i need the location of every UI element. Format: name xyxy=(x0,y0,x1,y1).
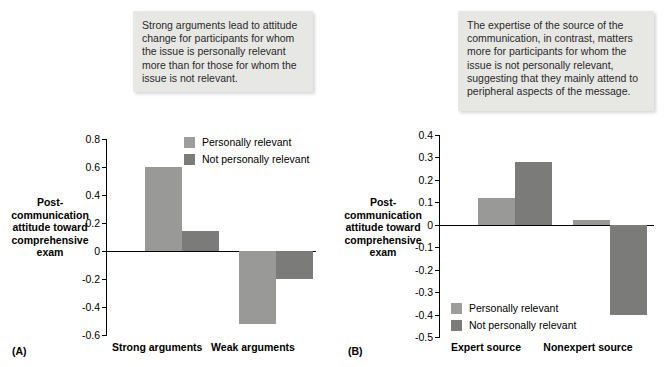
y-tick-b-9 xyxy=(435,337,440,338)
panel-label-a: (A) xyxy=(12,345,27,357)
y-tick-a-7 xyxy=(102,335,107,336)
y-tick-a-6 xyxy=(102,307,107,308)
bar-strong-personally-relevant xyxy=(145,167,182,251)
bar-nonexpert-not-personally-relevant xyxy=(610,225,647,315)
figure-root: Strong arguments lead to attitude change… xyxy=(0,0,666,367)
y-tick-b-8 xyxy=(435,315,440,316)
bar-weak-not-personally-relevant xyxy=(276,251,313,279)
y-tick-b-3 xyxy=(435,202,440,203)
y-ticklabel-b-6: -0.2 xyxy=(415,264,433,276)
y-ticklabel-b-0: 0.4 xyxy=(418,129,433,141)
bar-strong-not-personally-relevant xyxy=(182,231,219,251)
y-ticklabel-a-6: -0.4 xyxy=(82,301,100,313)
y-tick-b-2 xyxy=(435,180,440,181)
bar-expert-not-personally-relevant xyxy=(515,162,552,225)
y-ticklabel-b-4: 0 xyxy=(427,219,433,231)
y-ticklabel-b-2: 0.2 xyxy=(418,174,433,186)
annotation-note-a: Strong arguments lead to attitude change… xyxy=(133,11,313,92)
y-axis-title-a: Post-communication attitude toward compr… xyxy=(8,196,92,259)
legend-label-not-personally-relevant: Not personally relevant xyxy=(202,153,309,165)
annotation-note-b: The expertise of the source of the commu… xyxy=(458,11,654,111)
panel-a: Strong arguments lead to attitude change… xyxy=(0,0,333,367)
y-ticklabel-a-7: -0.6 xyxy=(82,329,100,341)
legend-swatch-icon-not-personally-relevant xyxy=(184,154,195,165)
legend-swatch-icon-not-personally-relevant xyxy=(451,320,462,331)
y-tick-b-7 xyxy=(435,292,440,293)
legend-b: Personally relevant Not personally relev… xyxy=(451,301,576,335)
x-label-b-1: Nonexpert source xyxy=(533,341,643,353)
y-tick-a-3 xyxy=(102,223,107,224)
y-ticklabel-a-1: 0.6 xyxy=(85,161,100,173)
panel-b: The expertise of the source of the commu… xyxy=(333,0,666,367)
y-ticklabel-a-3: 0.2 xyxy=(85,217,100,229)
legend-swatch-icon-personally-relevant xyxy=(451,303,462,314)
y-tick-a-2 xyxy=(102,195,107,196)
y-ticklabel-a-5: -0.2 xyxy=(82,273,100,285)
bar-nonexpert-personally-relevant xyxy=(573,220,610,225)
legend-label-personally-relevant: Personally relevant xyxy=(202,136,291,148)
legend-swatch-icon-personally-relevant xyxy=(184,137,195,148)
y-tick-a-0 xyxy=(102,139,107,140)
legend-label-personally-relevant: Personally relevant xyxy=(469,302,558,314)
legend-item-personally-relevant: Personally relevant xyxy=(184,135,309,149)
y-tick-b-6 xyxy=(435,270,440,271)
x-label-a-0: Strong arguments xyxy=(112,341,202,353)
y-tick-b-1 xyxy=(435,157,440,158)
panel-label-b: (B) xyxy=(348,345,363,357)
legend-label-not-personally-relevant: Not personally relevant xyxy=(469,319,576,331)
y-tick-a-1 xyxy=(102,167,107,168)
y-ticklabel-b-1: 0.3 xyxy=(418,151,433,163)
y-ticklabel-a-2: 0.4 xyxy=(85,189,100,201)
legend-item-not-personally-relevant: Not personally relevant xyxy=(451,318,576,332)
legend-a: Personally relevant Not personally relev… xyxy=(184,135,309,169)
y-axis-title-b: Post-communication attitude toward compr… xyxy=(341,196,425,259)
y-ticklabel-b-8: -0.4 xyxy=(415,309,433,321)
x-label-b-0: Expert source xyxy=(441,341,531,353)
y-ticklabel-a-0: 0.8 xyxy=(85,133,100,145)
y-ticklabel-b-9: -0.5 xyxy=(415,331,433,343)
y-tick-b-5 xyxy=(435,247,440,248)
legend-item-personally-relevant: Personally relevant xyxy=(451,301,576,315)
y-tick-b-0 xyxy=(435,135,440,136)
y-tick-a-5 xyxy=(102,279,107,280)
y-ticklabel-b-3: 0.1 xyxy=(418,196,433,208)
legend-item-not-personally-relevant: Not personally relevant xyxy=(184,152,309,166)
y-ticklabel-a-4: 0 xyxy=(94,245,100,257)
bar-expert-personally-relevant xyxy=(478,198,515,225)
bar-weak-personally-relevant xyxy=(239,251,276,324)
y-ticklabel-b-5: -0.1 xyxy=(415,241,433,253)
y-ticklabel-b-7: -0.3 xyxy=(415,286,433,298)
x-label-a-1: Weak arguments xyxy=(208,341,298,353)
